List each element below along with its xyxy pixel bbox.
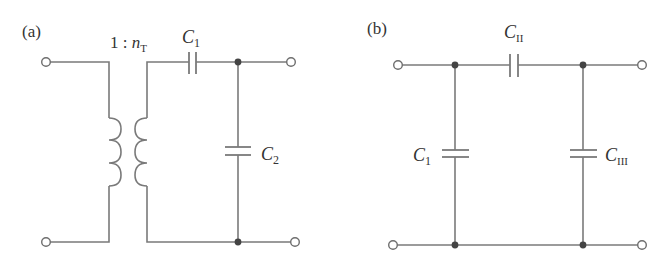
capacitor-c1-label: C1 <box>182 27 200 50</box>
panel-b-wiring <box>397 65 638 245</box>
terminal-output-bottom <box>291 238 300 247</box>
primary-wiring <box>50 62 109 242</box>
panel-a-label: (a) <box>22 22 41 41</box>
capacitor-cii-series <box>510 54 518 77</box>
capacitor-c1-shunt <box>442 150 469 157</box>
terminal-input-bottom <box>389 241 398 250</box>
capacitor-c2-label: C2 <box>261 144 279 167</box>
junction-node <box>452 242 459 249</box>
secondary-coil-icon <box>135 118 147 186</box>
junction-node <box>580 242 587 249</box>
terminal-input-top <box>42 58 51 67</box>
capacitor-c2-shunt <box>225 147 251 155</box>
terminal-input-bottom <box>42 238 51 247</box>
capacitor-ciii-label: CIII <box>605 145 628 167</box>
terminal-output-bottom <box>638 241 647 250</box>
capacitor-cii-label: CII <box>504 22 524 44</box>
panel-b: (b) CII C1 CIII <box>367 19 646 249</box>
junction-node <box>452 62 459 69</box>
terminal-input-top <box>394 61 403 70</box>
capacitor-c1-series <box>189 52 196 74</box>
junction-node <box>235 59 242 66</box>
primary-coil-icon <box>109 118 121 186</box>
junction-node <box>580 62 587 69</box>
panel-b-label: (b) <box>367 19 387 38</box>
panel-a: (a) 1 : nT C1 C2 <box>22 22 299 246</box>
capacitor-c1-label-b: C1 <box>413 145 431 168</box>
terminal-output-top <box>638 61 647 70</box>
terminal-output-top <box>287 58 296 67</box>
circuit-diagram: (a) 1 : nT C1 C2 <box>0 0 670 267</box>
transformer-ratio-label: 1 : nT <box>110 33 147 54</box>
junction-node <box>235 239 242 246</box>
capacitor-ciii-shunt <box>570 150 597 157</box>
